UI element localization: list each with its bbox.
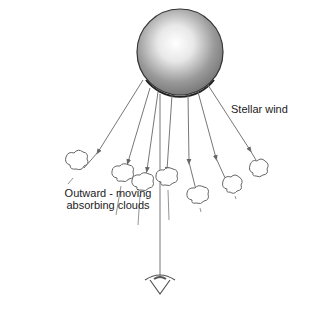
cloud-5 [187,186,209,204]
clouds-label-line2: absorbing clouds [48,199,168,211]
cloud-2 [112,164,134,182]
stellar-wind-label: Stellar wind [231,103,288,115]
stellar-wind-diagram [0,0,319,310]
cloud-4 [156,168,178,186]
clouds-label: Outward - moving absorbing clouds [48,187,168,211]
cloud-6 [223,175,243,193]
cloud-7 [249,159,268,177]
star [137,9,223,97]
clouds-label-line1: Outward - moving [48,187,168,199]
eye-icon [145,275,175,294]
